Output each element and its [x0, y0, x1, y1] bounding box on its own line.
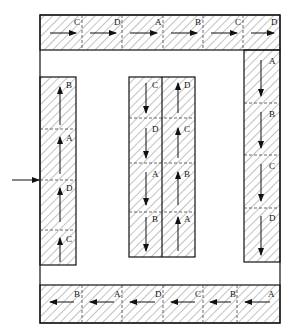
top-label: C	[74, 17, 80, 27]
middle-right-label: A	[184, 214, 191, 224]
middle-left-label: A	[152, 169, 159, 179]
middle-left-label: D	[152, 124, 159, 134]
bottom-band: B A D C B A	[40, 285, 280, 323]
left-label: D	[66, 183, 73, 193]
left-label: C	[66, 234, 72, 244]
middle-right-label: C	[184, 124, 190, 134]
left-column: B A D C	[40, 77, 76, 265]
right-label: B	[269, 109, 275, 119]
bottom-label: D	[155, 289, 162, 299]
top-label: C	[235, 17, 241, 27]
middle-left-label: C	[152, 80, 158, 90]
bottom-label: B	[74, 289, 80, 299]
top-label: A	[155, 17, 162, 27]
right-label: A	[269, 56, 276, 66]
middle-right-label: B	[184, 169, 190, 179]
top-label: B	[195, 17, 201, 27]
right-label: D	[269, 213, 276, 223]
right-label: C	[269, 161, 275, 171]
left-label: A	[66, 133, 73, 143]
bottom-label: B	[230, 289, 236, 299]
top-band: C D A B C D	[40, 15, 280, 50]
middle-block: C D A B D C B A	[129, 77, 195, 257]
bottom-label: A	[114, 289, 121, 299]
top-label: D	[271, 17, 278, 27]
flow-diagram: C D A B C D B A D C B A	[0, 0, 295, 335]
top-label: D	[114, 17, 121, 27]
bottom-label: A	[268, 289, 275, 299]
right-column: A B C D	[244, 50, 280, 262]
middle-left-label: B	[152, 214, 158, 224]
left-label: B	[66, 80, 72, 90]
bottom-label: C	[195, 289, 201, 299]
middle-right-label: D	[184, 80, 191, 90]
